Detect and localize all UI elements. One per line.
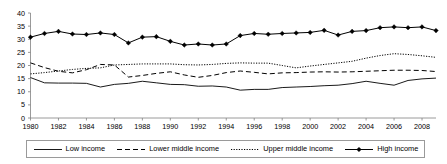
dotted-line-swatch (230, 145, 260, 154)
x-tick-label: 1984 (78, 122, 94, 131)
x-axis-tick-labels: 1980198219841986198819901992199419961998… (23, 122, 431, 131)
data-point-marker (378, 25, 383, 30)
data-point-marker (322, 28, 327, 33)
x-tick-label: 1998 (274, 122, 290, 131)
x-tick-label: 1980 (23, 122, 39, 131)
legend-item-low-income[interactable]: Low income (33, 145, 105, 154)
x-tick-label: 2004 (358, 122, 374, 131)
data-point-marker (196, 42, 201, 47)
data-point-marker (308, 30, 313, 35)
data-point-marker (350, 29, 355, 34)
x-tick-label: 1982 (50, 122, 66, 131)
data-point-marker (42, 31, 47, 36)
x-tick-label: 1996 (246, 122, 262, 131)
data-point-marker (210, 43, 215, 48)
y-tick-label: 5 (21, 100, 25, 109)
legend-label: Low income (66, 145, 105, 152)
diamond-marker-line-swatch (344, 145, 374, 154)
x-tick-label: 1986 (106, 122, 122, 131)
y-tick-label: 20 (17, 61, 25, 70)
series-line-high-income (31, 27, 437, 45)
dashed-line-swatch (116, 145, 146, 154)
y-tick-label: 30 (17, 35, 25, 44)
x-tick-label: 1990 (162, 122, 178, 131)
data-point-marker (112, 32, 117, 37)
x-tick-label: 1988 (134, 122, 150, 131)
plot-area: 0510152025303540 19801982198419861988199… (0, 0, 447, 137)
data-point-marker (140, 35, 145, 40)
chart-legend: Low incomeLower middle incomeUpper middl… (26, 140, 425, 158)
x-tick-label: 2000 (302, 122, 318, 131)
y-tick-label: 40 (17, 9, 25, 18)
data-point-marker (84, 32, 89, 37)
data-point-marker (252, 31, 257, 36)
data-point-marker (224, 42, 229, 47)
y-tick-label: 15 (17, 74, 25, 83)
y-tick-label: 25 (17, 48, 25, 57)
data-series-group (28, 25, 438, 91)
data-point-marker (364, 28, 369, 33)
data-point-marker (420, 25, 425, 30)
data-point-marker (434, 28, 439, 33)
legend-item-high-income[interactable]: High income (344, 145, 418, 154)
legend-label: Upper middle income (263, 145, 333, 152)
x-tick-label: 2002 (330, 122, 346, 131)
data-point-marker (266, 32, 271, 37)
line-chart: 0510152025303540 19801982198419861988199… (0, 0, 447, 164)
x-tick-label: 2008 (414, 122, 430, 131)
data-point-marker (126, 41, 131, 46)
data-point-marker (56, 29, 61, 34)
series-line-low-income (31, 78, 437, 91)
data-point-marker (168, 39, 173, 44)
data-point-marker (238, 33, 243, 38)
solid-line-swatch (33, 145, 63, 154)
data-point-marker (182, 43, 187, 48)
data-point-marker (336, 33, 341, 38)
x-tick-label: 1992 (190, 122, 206, 131)
data-point-marker (280, 31, 285, 36)
legend-label: High income (377, 145, 418, 152)
series-line-lower-middle-income (31, 63, 437, 77)
y-tick-label: 35 (17, 22, 25, 31)
data-point-marker (392, 25, 397, 30)
data-point-marker (28, 35, 33, 40)
data-point-marker (98, 31, 103, 36)
x-tick-label: 1994 (218, 122, 234, 131)
y-axis-tick-labels: 0510152025303540 (17, 9, 25, 123)
legend-diamond-marker (357, 147, 362, 152)
legend-label: Lower middle income (149, 145, 219, 152)
data-point-marker (406, 25, 411, 30)
x-tick-label: 2006 (386, 122, 402, 131)
y-tick-label: 10 (17, 87, 25, 96)
data-point-marker (70, 32, 75, 37)
data-point-marker (154, 34, 159, 39)
data-point-marker (294, 31, 299, 36)
legend-item-upper-middle-income[interactable]: Upper middle income (230, 145, 333, 154)
legend-item-lower-middle-income[interactable]: Lower middle income (116, 145, 219, 154)
